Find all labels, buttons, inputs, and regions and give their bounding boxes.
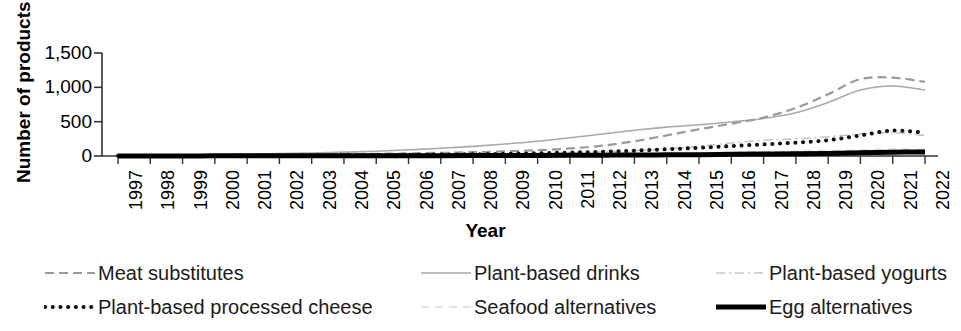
legend-item[interactable]: Plant-based yogurts [715, 258, 947, 288]
x-axis-title: Year [0, 220, 961, 242]
solid-black-thick-line-key [715, 299, 767, 315]
legend-item[interactable]: Plant-based processed cheese [44, 292, 373, 322]
series-line [118, 152, 925, 156]
legend-item-label: Plant-based processed cheese [98, 296, 373, 318]
solid-gray-line-key [420, 265, 472, 281]
legend-item-label: Plant-based drinks [474, 262, 640, 284]
legend-item-label: Egg alternatives [769, 296, 912, 318]
legend-item[interactable]: Plant-based drinks [420, 258, 640, 288]
chart-legend: Meat substitutesPlant-based drinksPlant-… [0, 258, 961, 331]
dashed-line-key [44, 265, 96, 281]
dashdot-line-key [715, 265, 767, 281]
series-line [118, 86, 925, 156]
legend-item-label: Plant-based yogurts [769, 262, 947, 284]
legend-item-label: Meat substitutes [98, 262, 244, 284]
legend-item[interactable]: Egg alternatives [715, 292, 912, 322]
x-axis-title-text: Year [465, 220, 505, 241]
light-dashed-line-key [420, 299, 472, 315]
legend-item[interactable]: Meat substitutes [44, 258, 244, 288]
dotted-line-key [44, 299, 96, 315]
legend-item[interactable]: Seafood alternatives [420, 292, 656, 322]
legend-item-label: Seafood alternatives [474, 296, 656, 318]
chart-figure: Number of products 05001,0001,500 199719… [0, 0, 961, 331]
